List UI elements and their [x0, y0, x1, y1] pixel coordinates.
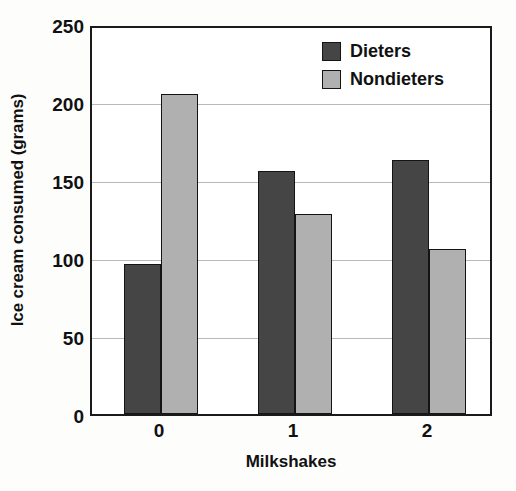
y-axis-tick-label: 50: [32, 329, 84, 348]
y-axis-tick-label: 200: [32, 95, 84, 114]
y-axis-tick-label: 100: [32, 251, 84, 270]
bar-nondieters-2: [429, 249, 466, 414]
legend-item-nondieters: Nondieters: [322, 66, 474, 92]
y-axis-tick-labels: 050100150200250: [28, 0, 84, 491]
x-axis-tick-labels: 012: [90, 420, 492, 450]
y-axis-tick-label: 250: [32, 17, 84, 36]
bar-dieters-2: [392, 160, 429, 414]
bar-nondieters-0: [161, 94, 198, 414]
bar-chart-figure: Ice cream consumed (grams) 0501001502002…: [0, 0, 516, 491]
bar-nondieters-1: [295, 214, 332, 414]
legend-swatch-nondieters: [322, 70, 341, 89]
x-axis-title: Milkshakes: [90, 452, 492, 472]
bar-dieters-0: [124, 264, 161, 414]
y-axis-title-text: Ice cream consumed (grams): [8, 94, 28, 327]
y-axis-tick-label: 150: [32, 173, 84, 192]
legend-label-dieters: Dieters: [350, 41, 411, 62]
legend-swatch-dieters: [322, 42, 341, 61]
y-axis-tick-label: 0: [32, 407, 84, 426]
bar-dieters-1: [258, 171, 295, 414]
x-axis-tick-label: 1: [288, 420, 299, 442]
legend-item-dieters: Dieters: [322, 38, 474, 64]
legend-label-nondieters: Nondieters: [350, 69, 444, 90]
x-axis-tick-label: 0: [154, 420, 165, 442]
x-axis-tick-label: 2: [422, 420, 433, 442]
chart-legend: Dieters Nondieters: [322, 38, 474, 94]
